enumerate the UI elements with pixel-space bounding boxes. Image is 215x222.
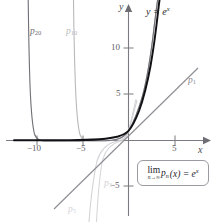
x-tick-label--10: −10: [27, 144, 41, 153]
y-tick-label-10: 10: [111, 43, 120, 52]
curve-label-p10: p10: [66, 27, 77, 37]
limit-formula-box: lim n→∞ pn (x) = ex: [137, 160, 209, 186]
curve-label-p1: p1: [188, 76, 196, 86]
exponential-curve-label-text: y = e: [146, 6, 167, 17]
exponential-taylor-polynomial-figure: −10 −5 5 10 5 −5 x y y = ex p20 p10 p1 p…: [0, 0, 215, 222]
limit-formula-exponent: x: [196, 167, 199, 174]
limit-formula-p-sub: n: [166, 173, 169, 179]
limit-formula-rhs: (x) = ex: [170, 167, 199, 179]
y-tick-label-5: 5: [116, 89, 121, 98]
exponential-curve-label: y = ex: [146, 6, 170, 17]
limit-formula-arg: (x) = e: [170, 169, 196, 179]
curve-exponential: [14, 0, 160, 140]
curve-p3: [89, 100, 137, 222]
curve-label-p1-sub: 1: [193, 78, 196, 85]
x-tick-label--5: −5: [76, 144, 86, 153]
curve-label-p3: p3: [104, 179, 112, 189]
curve-label-p20: p20: [30, 27, 41, 37]
limit-operator: lim n→∞: [147, 166, 160, 181]
limit-operator-subscript: n→∞: [148, 175, 160, 181]
curve-label-p5-sub: 5: [73, 207, 76, 214]
limit-formula-text: lim n→∞ pn (x) = ex: [147, 166, 198, 181]
y-axis-arrowhead: [125, 4, 132, 12]
limit-formula-body: pn: [161, 168, 169, 179]
x-axis-label: x: [198, 145, 202, 155]
curve-label-p3-sub: 3: [109, 181, 112, 188]
y-axis-label: y: [119, 2, 123, 12]
exponential-curve-label-exponent: x: [167, 5, 170, 12]
curve-label-p10-sub: 10: [71, 29, 78, 36]
curve-label-p5: p5: [68, 205, 76, 215]
curve-p20: [28, 0, 157, 141]
curve-p5: [97, 99, 137, 222]
curve-label-p20-sub: 20: [35, 29, 42, 36]
x-axis-arrowhead: [203, 137, 211, 144]
x-tick-label-5: 5: [172, 144, 177, 153]
